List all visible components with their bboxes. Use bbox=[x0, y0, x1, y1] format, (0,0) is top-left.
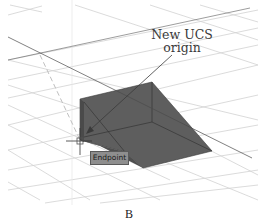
new-ucs-origin-callout: New UCS origin bbox=[138, 28, 226, 54]
callout-line-2: origin bbox=[138, 41, 226, 54]
figure-caption: B bbox=[0, 207, 258, 222]
endpoint-snap-tooltip: Endpoint bbox=[90, 151, 129, 165]
